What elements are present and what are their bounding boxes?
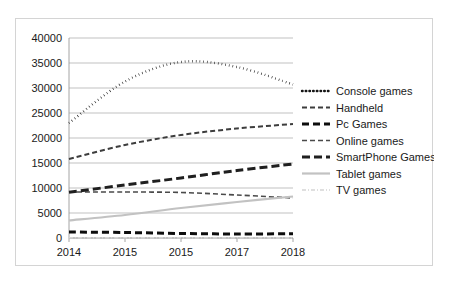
legend-label-console-games[interactable]: Console games	[336, 85, 413, 97]
legend-label-tv-games[interactable]: TV games	[336, 184, 387, 196]
y-tick-label: 25000	[31, 107, 62, 119]
chart-legend: Console gamesHandheldPc GamesOnline game…	[302, 85, 434, 196]
y-tick-label: 20000	[31, 132, 62, 144]
x-tick-label: 2017	[225, 246, 249, 258]
legend-label-online-games[interactable]: Online games	[336, 135, 404, 147]
legend-label-tablet-games[interactable]: Tablet games	[336, 168, 402, 180]
legend-label-pc-games[interactable]: Pc Games	[336, 118, 388, 130]
x-tick-label: 2015	[169, 246, 193, 258]
series-line-console-games	[69, 61, 293, 123]
series-line-tablet-games	[69, 197, 293, 221]
y-tick-label: 10000	[31, 182, 62, 194]
series-line-online-games	[69, 192, 293, 198]
y-tick-label: 35000	[31, 57, 62, 69]
x-tick-label: 2018	[281, 246, 305, 258]
chart-frame: 0500010000150002000025000300003500040000…	[15, 18, 433, 266]
y-tick-label: 15000	[31, 157, 62, 169]
x-tick-label: 2014	[57, 246, 81, 258]
line-chart: 0500010000150002000025000300003500040000…	[16, 19, 434, 267]
y-tick-label: 30000	[31, 82, 62, 94]
y-tick-label: 0	[56, 232, 62, 244]
y-tick-label: 40000	[31, 32, 62, 44]
legend-label-smartphone-games[interactable]: SmartPhone Games	[336, 151, 434, 163]
series-line-pc-games	[69, 232, 293, 234]
x-axis-tick-labels: 20142015201520172018	[57, 238, 305, 258]
series-line-handheld	[69, 124, 293, 159]
legend-label-handheld[interactable]: Handheld	[336, 102, 383, 114]
x-tick-label: 2015	[113, 246, 137, 258]
chart-plot-area: 0500010000150002000025000300003500040000…	[16, 19, 434, 267]
y-tick-label: 5000	[38, 207, 62, 219]
y-axis-tick-labels: 0500010000150002000025000300003500040000	[31, 32, 62, 244]
